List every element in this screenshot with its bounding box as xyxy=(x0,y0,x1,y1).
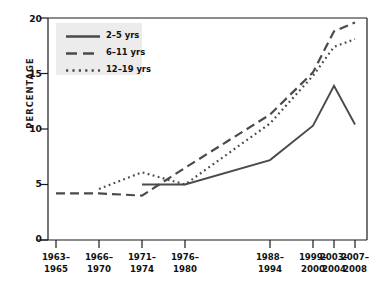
legend: 2–5 yrs 6–11 yrs 12–19 yrs xyxy=(56,23,142,75)
legend-label-0: 2–5 yrs xyxy=(106,30,139,40)
legend-label-2: 12–19 yrs xyxy=(106,64,151,74)
x-tick-marks xyxy=(56,240,355,248)
legend-swatch-dotted xyxy=(66,69,100,72)
chart-container: PERCENTAGE 20 15 10 5 0 xyxy=(0,0,381,286)
series-line-0 xyxy=(142,86,355,185)
x-tick-label-1-line1: 1966– xyxy=(76,252,122,264)
x-tick-label-1-line2: 1970 xyxy=(76,264,122,276)
x-tick-label-0-line2: 1965 xyxy=(33,264,79,276)
legend-swatch-dashed xyxy=(66,52,100,55)
x-tick-label-3-line1: 1976– xyxy=(162,252,208,264)
x-tick-label-0-line1: 1963– xyxy=(33,252,79,264)
legend-swatch-solid xyxy=(66,35,100,38)
x-tick-label-2-line2: 1974 xyxy=(119,264,165,276)
x-tick-label-4-line1: 1988– xyxy=(247,252,293,264)
x-tick-label-3: 1976– 1980 xyxy=(162,252,208,275)
x-tick-label-3-line2: 1980 xyxy=(162,264,208,276)
legend-label-1: 6–11 yrs xyxy=(106,47,145,57)
x-tick-label-4: 1988– 1994 xyxy=(247,252,293,275)
x-tick-label-2-line1: 1971– xyxy=(119,252,165,264)
y-tick-marks xyxy=(41,18,48,240)
x-tick-label-1: 1966– 1970 xyxy=(76,252,122,275)
x-tick-label-7-line1: 2007– xyxy=(332,252,378,264)
x-tick-label-7: 2007– 2008 xyxy=(332,252,378,275)
x-tick-label-2: 1971– 1974 xyxy=(119,252,165,275)
x-tick-label-7-line2: 2008 xyxy=(332,264,378,276)
x-tick-label-0: 1963– 1965 xyxy=(33,252,79,275)
x-tick-label-4-line2: 1994 xyxy=(247,264,293,276)
